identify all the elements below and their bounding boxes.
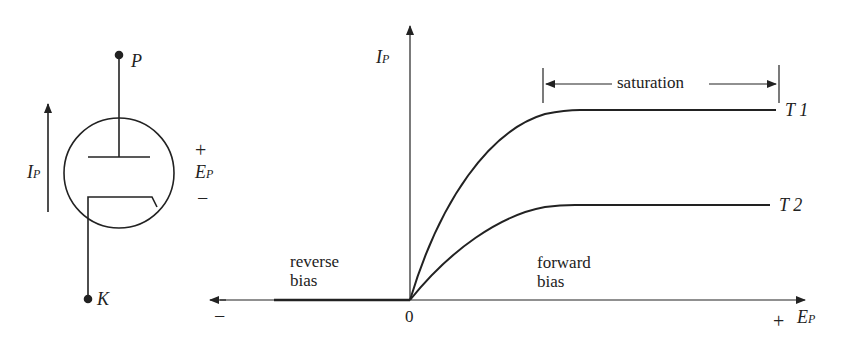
t2-label: T 2 [779,196,802,214]
reverse-bias-label-1: reverse [290,253,339,270]
vacuum-tube-symbol [48,52,174,303]
t1-label: T 1 [785,101,808,119]
reverse-bias-label-2: bias [290,272,317,289]
x-plus-label: + [773,311,784,331]
tube-voltage-label: EP [195,163,213,181]
forward-bias-label-1: forward [537,254,591,271]
x-axis-label: EP [797,308,815,326]
x-minus-label: − [214,306,225,326]
diode-diagram: P K IP + EP − IP 0 − + EP saturation T 1… [0,0,848,345]
cathode-label: K [97,290,109,308]
y-axis-label: IP [376,48,389,66]
cathode-terminal [85,296,92,303]
tube-current-label: IP [27,163,40,181]
diagram-graphics [0,0,848,345]
tube-minus: − [197,188,208,208]
cathode [88,197,157,301]
plate-label: P [131,52,142,70]
forward-bias-label-2: bias [537,273,564,290]
saturation-label: saturation [617,74,684,91]
plate-terminal [116,52,123,59]
origin-label: 0 [405,308,414,325]
tube-plus: + [195,140,206,160]
